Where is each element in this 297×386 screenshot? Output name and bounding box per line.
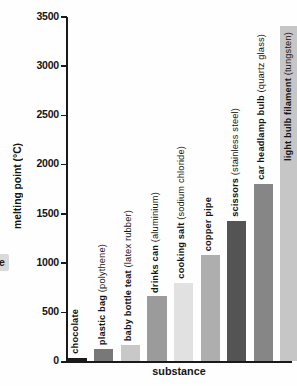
x-axis-title: substance — [66, 365, 292, 377]
bar-chocolate — [68, 358, 87, 361]
y-tick-mark — [61, 213, 67, 215]
page-edge-fragment: e — [0, 254, 9, 271]
bar-plastic-bag — [94, 349, 113, 362]
y-tick-label: 3500 — [14, 11, 59, 23]
y-tick-mark — [61, 65, 67, 67]
y-tick-mark — [61, 115, 67, 117]
bar-drinks-can — [147, 296, 166, 361]
bar-label-drinks-can: drinks can (aluminium) — [151, 192, 160, 293]
bar-label-light-bulb-filament: light bulb filament (tungsten) — [284, 32, 293, 161]
bar-cooking-salt — [174, 283, 193, 362]
bar-label-scissors: scissors (stainless steel) — [231, 108, 240, 217]
bar-scissors — [227, 221, 246, 362]
y-tick-label: 500 — [14, 306, 59, 318]
y-tick-label: 1000 — [14, 257, 59, 269]
y-tick-mark — [61, 16, 67, 18]
bar-label-chocolate: chocolate — [71, 309, 80, 354]
y-tick-mark — [61, 312, 67, 314]
y-tick-label: 2500 — [14, 109, 59, 121]
bar-label-copper-pipe: copper pipe — [204, 197, 213, 251]
bar-label-car-headlamp-bulb: car headlamp bulb (quartz glass) — [257, 34, 266, 180]
y-tick-label: 3000 — [14, 60, 59, 72]
bar-label-baby-bottle-teat: baby bottle teat (latex rubber) — [124, 210, 133, 341]
y-tick-mark — [61, 164, 67, 166]
bar-baby-bottle-teat — [121, 345, 140, 362]
bar-label-cooking-salt: cooking salt (sodium chloride) — [177, 146, 186, 279]
bar-car-headlamp-bulb — [254, 184, 273, 361]
y-tick-label: 1500 — [14, 208, 59, 220]
bar-label-plastic-bag: plastic bag (polythene) — [98, 244, 107, 345]
y-tick-label: 0 — [14, 355, 59, 367]
x-axis — [61, 361, 292, 363]
bar-copper-pipe — [201, 255, 220, 361]
bar-chart: e melting point (°C) substance 050010001… — [0, 0, 297, 386]
y-tick-mark — [61, 361, 67, 363]
y-tick-mark — [61, 262, 67, 264]
y-tick-label: 2000 — [14, 158, 59, 170]
